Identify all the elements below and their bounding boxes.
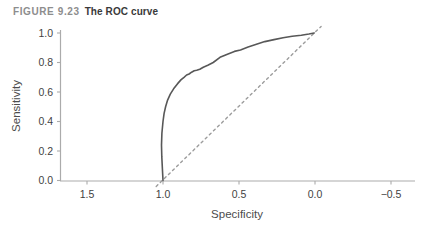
y-axis-label: Sensitivity <box>10 80 22 132</box>
x-tick-label: 1.0 <box>156 188 171 200</box>
x-axis-label: Specificity <box>211 208 263 220</box>
tick-labels: 1.51.00.50.0−0.50.00.20.40.60.81.0 <box>38 27 401 201</box>
y-tick-label: 0.8 <box>38 56 53 68</box>
y-tick-label: 0.6 <box>38 86 53 98</box>
figure-panel: FIGURE 9.23The ROC curve 1.51.00.50.0−0.… <box>0 0 429 233</box>
y-tick-label: 0.2 <box>38 145 53 157</box>
x-tick-label: 1.5 <box>80 188 95 200</box>
roc-chart: 1.51.00.50.0−0.50.00.20.40.60.81.0 Speci… <box>0 0 429 233</box>
axes <box>60 30 415 181</box>
x-tick-label: 0.0 <box>308 188 323 200</box>
series-lines <box>156 26 321 186</box>
y-tick-label: 1.0 <box>38 27 53 39</box>
y-tick-label: 0.0 <box>38 174 53 186</box>
x-tick-label: −0.5 <box>381 188 402 200</box>
y-tick-label: 0.4 <box>38 115 53 127</box>
x-tick-label: 0.5 <box>232 188 247 200</box>
